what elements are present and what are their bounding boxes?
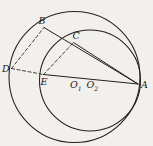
dashed-d-e: [12, 69, 44, 75]
o2-subscript: 2: [94, 85, 98, 92]
center-label-o1: O1: [70, 80, 82, 92]
dashed-d-b: [12, 28, 45, 69]
dashed-e-c: [44, 43, 74, 75]
point-label-e: E: [41, 77, 48, 87]
point-label-a: A: [141, 80, 148, 90]
point-label-b: B: [39, 16, 46, 26]
point-label-c: C: [73, 31, 80, 41]
point-label-d: D: [2, 64, 10, 74]
center-label-o2: O2: [87, 80, 99, 92]
o1-base: O: [70, 79, 78, 90]
o1-subscript: 1: [78, 85, 82, 92]
geometry-figure: B C D E A O1 O2: [0, 0, 153, 146]
figure-canvas: [0, 0, 153, 146]
chord-c-a: [74, 43, 139, 85]
